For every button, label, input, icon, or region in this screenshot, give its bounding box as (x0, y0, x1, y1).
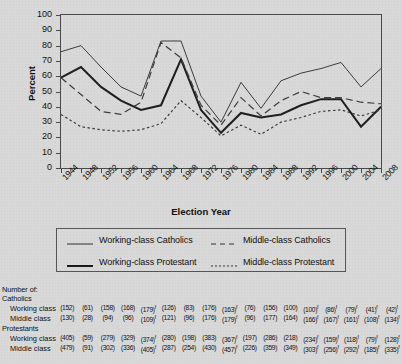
table-cell: (405)f (138, 344, 158, 353)
row-values: (152)(61)(158)(168)(179)f(126)(83)(176)(… (57, 304, 402, 313)
line-swatch-solid-thin (67, 235, 93, 245)
legend-item-working-class-catholics: Working-class Catholics (57, 235, 211, 245)
table-cell: (179)f (219, 314, 239, 323)
table-cell: (130) (57, 314, 77, 323)
table-cell: (359) (260, 344, 280, 353)
legend-row: Working-class Catholics Middle-class Cat… (57, 229, 345, 251)
table-cell: (430) (199, 344, 219, 353)
table-cell: (254) (179, 344, 199, 353)
table-cell: (96) (240, 314, 260, 323)
table-cell: (226) (240, 344, 260, 353)
legend-label: Working-class Catholics (99, 235, 193, 245)
table-cell: (134)f (382, 314, 402, 323)
y-tick-label: 40 (26, 102, 52, 111)
table-row: Working class (152)(61)(158)(168)(179)f(… (0, 304, 402, 314)
table-row: Working class (405)(59)(279)(329)(374)f(… (0, 334, 402, 344)
table-group-catholics: Catholics (2, 294, 32, 303)
y-tick-label: 10 (26, 148, 52, 157)
table-cell: (159)f (321, 334, 341, 343)
table-cell: (79)f (361, 334, 381, 343)
series-middle-class-protestant (61, 101, 381, 136)
table-cell: (161)f (341, 314, 361, 323)
table-cell: (280) (158, 334, 178, 343)
table-cell: (166)f (301, 314, 321, 323)
y-tick-label: 90 (26, 25, 52, 34)
table-cell: (336) (118, 344, 138, 353)
table-row: Middle class (479)(91)(302)(336)(405)f(2… (0, 344, 402, 354)
table-cell: (457)f (219, 344, 239, 353)
chart: Percent 1009080706050403020100 Election … (0, 0, 402, 225)
plot-area (60, 14, 382, 169)
legend-item-middle-class-catholics: Middle-class Catholics (211, 235, 345, 245)
table-cell: (335)f (382, 344, 402, 353)
table-cell: (164) (280, 314, 300, 323)
y-tick-label: 70 (26, 56, 52, 65)
table-cell: (156) (260, 304, 280, 313)
y-tick-label: 50 (26, 87, 52, 96)
table-cell: (197) (240, 334, 260, 343)
table-cell: (96) (179, 314, 199, 323)
table-cell: (374)f (138, 334, 158, 343)
table-cell: (279) (98, 334, 118, 343)
table-cell: (100) (280, 304, 300, 313)
table-cell: (302) (98, 344, 118, 353)
table-cell: (76) (240, 304, 260, 313)
row-values: (130)(28)(94)(96)(109)f(121)(96)(176)(17… (57, 314, 402, 323)
legend-item-working-class-protestant: Working-class Protestant (57, 257, 211, 267)
table-cell: (163)f (219, 304, 239, 313)
table-cell: (292)f (341, 344, 361, 353)
table-cell: (168) (118, 304, 138, 313)
table-cell: (218) (280, 334, 300, 343)
table-cell: (91) (77, 344, 97, 353)
y-tick-label: 20 (26, 132, 52, 141)
line-swatch-solid-thick (67, 257, 93, 267)
table-cell: (121) (158, 314, 178, 323)
legend-label: Middle-class Protestant (243, 257, 334, 267)
table-cell: (479) (57, 344, 77, 353)
table-cell: (118)f (341, 334, 361, 343)
line-swatch-dashed (211, 235, 237, 245)
table-cell: (79)f (341, 304, 361, 313)
table-cell: (28) (77, 314, 97, 323)
table-cell: (94) (98, 314, 118, 323)
series-lines (61, 15, 381, 168)
table-cell: (287) (158, 344, 178, 353)
table-row: Middle class (130)(28)(94)(96)(109)f(121… (0, 314, 402, 324)
table-cell: (61) (77, 304, 97, 313)
row-label: Working class (10, 334, 56, 343)
y-tick-label: 80 (26, 41, 52, 50)
table-cell: (405) (57, 334, 77, 343)
y-tick-label: 60 (26, 71, 52, 80)
table-cell: (179)f (138, 304, 158, 313)
table-cell: (42)f (382, 304, 402, 313)
table-cell: (108)f (361, 314, 381, 323)
counts-table: Number of: Catholics Working class (152)… (0, 285, 402, 364)
table-caption: Number of: (2, 285, 38, 294)
y-tick-label: 100 (26, 10, 52, 19)
table-cell: (176) (199, 314, 219, 323)
row-label: Middle class (10, 344, 51, 353)
table-cell: (126) (158, 304, 178, 313)
row-values: (405)(59)(279)(329)(374)f(280)(198)(383)… (57, 334, 402, 343)
line-swatch-dotted (211, 257, 237, 267)
row-label: Middle class (10, 314, 51, 323)
table-cell: (128)f (382, 334, 402, 343)
series-middle-class-catholics (61, 43, 381, 126)
table-cell: (167)f (321, 314, 341, 323)
table-cell: (367)f (219, 334, 239, 343)
table-cell: (96) (118, 314, 138, 323)
x-axis-title: Election Year (0, 206, 402, 217)
table-cell: (41)f (361, 304, 381, 313)
table-cell: (100)f (301, 304, 321, 313)
legend: Working-class Catholics Middle-class Cat… (56, 228, 346, 272)
y-tick-label: 0 (26, 163, 52, 172)
legend-label: Middle-class Catholics (243, 235, 330, 245)
row-values: (479)(91)(302)(336)(405)f(287)(254)(430)… (57, 344, 402, 353)
table-cell: (177) (260, 314, 280, 323)
legend-row: Working-class Protestant Middle-class Pr… (57, 251, 345, 273)
table-cell: (86)f (321, 304, 341, 313)
table-cell: (59) (77, 334, 97, 343)
table-cell: (185)f (361, 344, 381, 353)
table-cell: (286) (260, 334, 280, 343)
table-cell: (152) (57, 304, 77, 313)
